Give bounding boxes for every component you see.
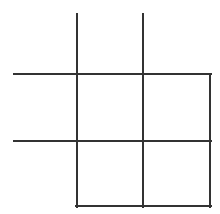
grid-diagram xyxy=(0,0,220,214)
